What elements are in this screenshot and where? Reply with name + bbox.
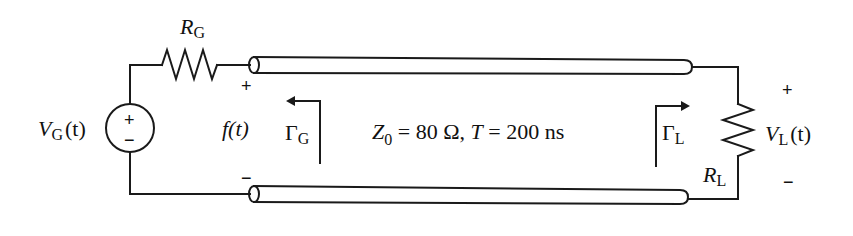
transmission-line-circuit: + − VG(t) RG + − f(t) ΓG Z0 = 80 Ω, T = … [0, 0, 853, 236]
generator-resistor-label: RG [179, 14, 205, 41]
bottom-line-body [254, 186, 688, 204]
source-plus-sign: + [124, 110, 135, 130]
load-voltage-label: VL(t) [765, 121, 811, 148]
line-input-minus-sign: − [241, 168, 252, 188]
load-resistor-zigzag [723, 104, 753, 156]
source-voltage-label: VG(t) [38, 116, 86, 143]
load-minus-sign: − [783, 172, 794, 192]
load-plus-sign: + [782, 80, 793, 100]
line-input-plus-sign: + [241, 76, 252, 96]
generator-resistor-zigzag [162, 50, 217, 79]
gamma-l-arrowhead-icon [681, 101, 690, 111]
wire-load-top [692, 67, 738, 104]
gamma-g-label: ΓG [285, 120, 310, 147]
source-minus-sign: − [124, 130, 135, 150]
wire-source-top [130, 65, 162, 104]
line-input-voltage-label: f(t) [222, 116, 249, 141]
wire-source-bottom [130, 152, 250, 194]
line-parameters-label: Z0 = 80 Ω, T = 200 ns [372, 119, 564, 148]
load-resistor-label: RL [702, 162, 726, 189]
gamma-l-label: ΓL [662, 120, 685, 147]
top-line-body [254, 57, 692, 74]
gamma-g-arrowhead-icon [286, 96, 295, 106]
